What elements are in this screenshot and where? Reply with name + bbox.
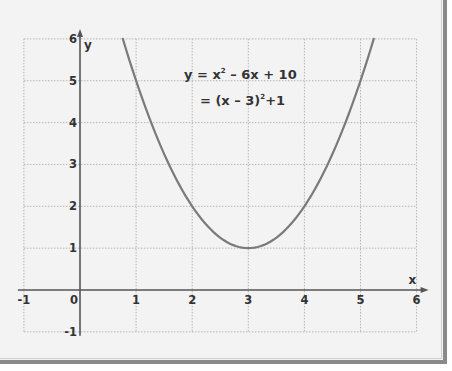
y-tick-label: 3 bbox=[69, 157, 77, 171]
equation-annotation: y = x2 – 6x + 10 = (x – 3)2+1 bbox=[184, 67, 297, 108]
x-tick-label: 5 bbox=[356, 293, 364, 307]
x-tick-label: -1 bbox=[18, 293, 31, 307]
equation-line-2: = (x – 3)2+1 bbox=[200, 93, 285, 108]
y-tick-label: 2 bbox=[69, 199, 77, 213]
equation-line-1: y = x2 – 6x + 10 bbox=[184, 67, 297, 82]
y-tick-label: 1 bbox=[69, 241, 77, 255]
x-tick-label: 0 bbox=[70, 293, 78, 307]
x-tick-label: 3 bbox=[244, 293, 252, 307]
eq2-lhs: = (x – 3) bbox=[200, 93, 260, 108]
eq2-rhs: +1 bbox=[265, 93, 285, 108]
x-tick-label: 6 bbox=[413, 293, 421, 307]
x-tick-label: 2 bbox=[188, 293, 196, 307]
chart-canvas: -10123456654321-1 x y y = x2 – 6x + 10 =… bbox=[0, 0, 452, 371]
y-axis-arrow bbox=[77, 29, 83, 37]
y-axis-label: y bbox=[84, 38, 92, 52]
y-tick-label: -1 bbox=[64, 325, 77, 339]
y-tick-label: 4 bbox=[69, 116, 77, 130]
eq1-rhs: – 6x + 10 bbox=[226, 67, 297, 82]
x-tick-label: 4 bbox=[300, 293, 308, 307]
eq1-lhs: y = x bbox=[184, 67, 221, 82]
y-tick-label: 6 bbox=[69, 32, 77, 46]
x-tick-label: 1 bbox=[132, 293, 140, 307]
grid bbox=[24, 39, 417, 332]
y-tick-label: 5 bbox=[69, 74, 77, 88]
x-axis-label: x bbox=[409, 273, 417, 287]
x-axis-arrow bbox=[421, 287, 429, 293]
